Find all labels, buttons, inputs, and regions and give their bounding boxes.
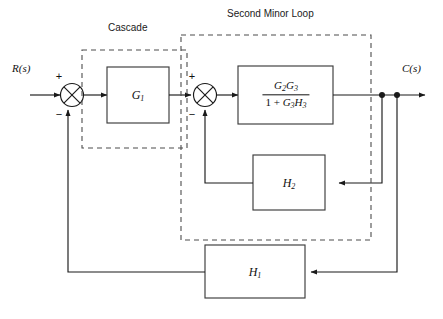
h1-block-label: H1 [249,265,262,280]
wire-h1-to-sum1 [68,110,205,272]
wire-output-to-h2 [339,95,382,183]
summing-junction-2-plus-sign: + [189,71,195,82]
transfer-function-denominator: 1 + G3H3 [262,96,309,111]
numerator-subscript-2: 3 [294,84,298,93]
h1-block-label-text: H [249,265,258,279]
second-minor-loop-label: Second Minor Loop [227,8,314,19]
h2-block-label-text: H [283,176,292,190]
denominator-term-1: G [283,97,291,109]
wire-h2-to-sum2 [205,110,253,183]
denominator-operator: + [271,97,283,109]
h1-block-label-subscript: 1 [257,271,261,280]
summing-junction-2-minus-sign: − [189,109,195,120]
numerator-term-2: G [286,79,294,91]
denominator-term-2: H [295,97,303,109]
g1-block-label-text: G [132,88,141,102]
g1-block-label-subscript: 1 [140,94,144,103]
output-signal-label: C(s) [402,62,421,74]
summing-junction-1-minus-sign: − [56,109,62,120]
transfer-function-numerator: G2G3 [262,79,309,94]
h2-block-label: H2 [283,176,296,191]
input-signal-label: R(s) [12,62,30,74]
diagram-canvas [0,0,443,319]
cascade-label: Cascade [108,22,147,33]
g1-block-label: G1 [132,88,145,103]
h2-block-label-subscript: 2 [291,182,295,191]
block-diagram: Cascade Second Minor Loop R(s) C(s) + − … [0,0,443,319]
transfer-function-expression: G2G3 1 + G3H3 [262,79,309,110]
denominator-subscript-2: 3 [303,102,307,111]
numerator-term-1: G [274,79,282,91]
summing-junction-1-plus-sign: + [56,71,62,82]
